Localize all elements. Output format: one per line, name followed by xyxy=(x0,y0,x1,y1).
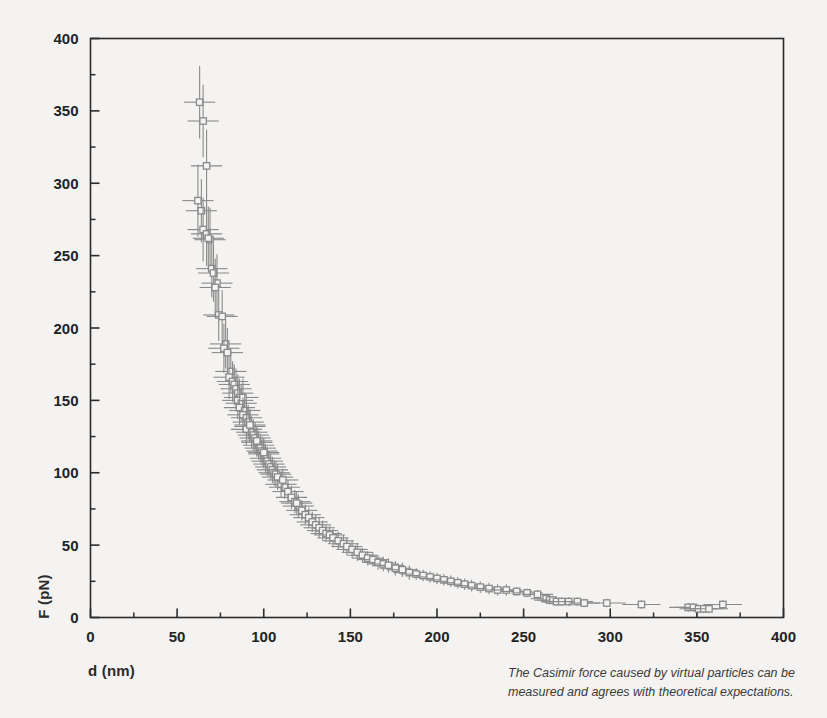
y-tick-label: 200 xyxy=(53,320,78,337)
data-marker xyxy=(196,99,202,105)
y-tick-label: 250 xyxy=(53,247,78,264)
data-marker xyxy=(413,571,419,577)
data-marker xyxy=(503,587,509,593)
data-point xyxy=(200,259,231,317)
data-marker xyxy=(448,578,454,584)
x-tick-label: 250 xyxy=(511,628,536,645)
data-marker xyxy=(706,606,712,612)
data-marker xyxy=(468,582,474,588)
data-point xyxy=(191,130,222,202)
x-tick-label: 0 xyxy=(86,628,94,645)
y-tick-label: 400 xyxy=(53,30,78,47)
data-marker xyxy=(200,118,206,124)
y-tick-label: 100 xyxy=(53,464,78,481)
data-marker xyxy=(203,163,209,169)
y-tick-label: 350 xyxy=(53,102,78,119)
x-tick-label: 100 xyxy=(251,628,276,645)
data-marker xyxy=(385,562,391,568)
data-marker xyxy=(212,284,218,290)
data-marker xyxy=(513,588,519,594)
data-marker xyxy=(420,572,426,578)
y-tick-label: 300 xyxy=(53,175,78,192)
data-marker xyxy=(604,600,610,606)
data-marker xyxy=(219,313,225,319)
data-point xyxy=(622,600,660,609)
casimir-force-plot: 0501001502002503003504000501001502002503… xyxy=(0,0,827,718)
x-tick-label: 300 xyxy=(598,628,623,645)
data-marker xyxy=(462,581,468,587)
plot-frame xyxy=(91,39,784,618)
data-marker xyxy=(254,438,260,444)
data-marker xyxy=(581,600,587,606)
data-marker xyxy=(534,591,540,597)
data-point xyxy=(184,66,215,138)
plot-frame-rect xyxy=(91,39,784,618)
data-marker xyxy=(247,422,253,428)
data-marker xyxy=(434,575,440,581)
data-point xyxy=(588,599,626,608)
x-tick-label: 400 xyxy=(771,628,796,645)
figure-caption: The Casimir force caused by virtual part… xyxy=(508,664,808,703)
x-tick-label: 350 xyxy=(684,628,709,645)
data-marker xyxy=(574,598,580,604)
data-marker xyxy=(195,197,201,203)
data-point xyxy=(210,319,241,368)
data-marker xyxy=(638,601,644,607)
data-marker xyxy=(486,585,492,591)
data-series xyxy=(182,66,742,613)
y-axis-label: F (pN) xyxy=(35,552,52,642)
data-marker xyxy=(455,580,461,586)
data-marker xyxy=(524,590,530,596)
data-marker xyxy=(406,569,412,575)
y-tick-label: 50 xyxy=(62,537,79,554)
data-point xyxy=(188,85,219,157)
data-marker xyxy=(224,349,230,355)
axis-ticks: 0501001502002503003504000501001502002503… xyxy=(53,30,796,645)
y-tick-label: 0 xyxy=(70,609,78,626)
casimir-force-figure: 0501001502002503003504000501001502002503… xyxy=(0,0,827,718)
data-marker xyxy=(261,449,267,455)
data-point xyxy=(207,290,238,342)
y-tick-label: 150 xyxy=(53,392,78,409)
x-tick-label: 200 xyxy=(424,628,449,645)
data-marker xyxy=(293,500,299,506)
data-marker xyxy=(392,565,398,571)
x-axis-label: d (nm) xyxy=(88,662,135,679)
data-marker xyxy=(477,584,483,590)
data-marker xyxy=(280,477,286,483)
data-marker xyxy=(399,567,405,573)
data-marker xyxy=(427,574,433,580)
data-marker xyxy=(441,577,447,583)
data-marker xyxy=(720,601,726,607)
x-tick-label: 50 xyxy=(169,628,186,645)
data-marker xyxy=(205,235,211,241)
x-tick-label: 150 xyxy=(338,628,363,645)
